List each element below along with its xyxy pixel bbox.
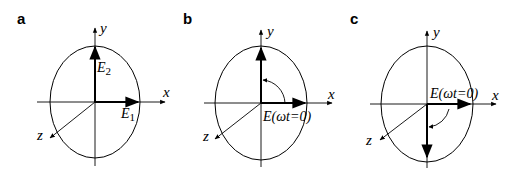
y-axis-label: y [98, 20, 107, 36]
z-axis [215, 103, 261, 139]
panel-b: b x y z E(ωt=0) [183, 10, 335, 167]
y-axis-label: y [431, 24, 440, 40]
e2-label: E2 [96, 60, 111, 77]
polarization-diagram: a x y z E2 bE1 b x y z E(ωt=0) c [0, 0, 516, 174]
x-axis-label: x [162, 84, 170, 100]
panel-label-c: c [350, 10, 358, 27]
y-axis-label: y [265, 23, 274, 39]
e1-label: bE1 [120, 106, 135, 123]
rotation-arrow-ccw [263, 80, 285, 103]
e-vector-label: E(ωt=0) [429, 86, 478, 102]
x-axis-label: x [327, 86, 335, 102]
rotation-arrow-cw [429, 109, 449, 127]
x-axis-label: x [491, 87, 499, 103]
panel-label-a: a [17, 10, 26, 27]
z-axis-label: z [36, 127, 43, 143]
z-axis [50, 102, 95, 138]
e-vector-label: E(ωt=0) [262, 109, 311, 125]
panel-a: a x y z E2 bE1 [17, 10, 170, 166]
z-axis-label: z [202, 128, 209, 144]
z-axis-label: z [365, 132, 372, 148]
z-axis [380, 104, 427, 140]
panel-label-b: b [183, 10, 192, 27]
panel-c: c x y z E(ωt=0) [350, 10, 499, 168]
